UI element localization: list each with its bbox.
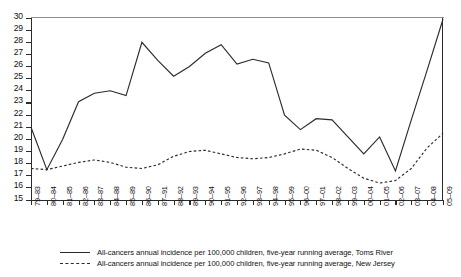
chart-container: 30292827262524232221201918171615 79–8380…: [0, 0, 461, 277]
chart-legend: All-cancers annual incidence per 100,000…: [60, 247, 460, 269]
series-line-toms-river: [31, 19, 443, 171]
legend-label-new-jersey: All-cancers annual incidence per 100,000…: [97, 259, 395, 268]
legend-item-toms-river: All-cancers annual incidence per 100,000…: [60, 247, 460, 258]
dashed-line-icon: [60, 260, 90, 268]
legend-label-toms-river: All-cancers annual incidence per 100,000…: [97, 248, 393, 257]
legend-item-new-jersey: All-cancers annual incidence per 100,000…: [60, 258, 460, 269]
series-layer: [0, 0, 461, 277]
solid-line-icon: [60, 249, 90, 257]
